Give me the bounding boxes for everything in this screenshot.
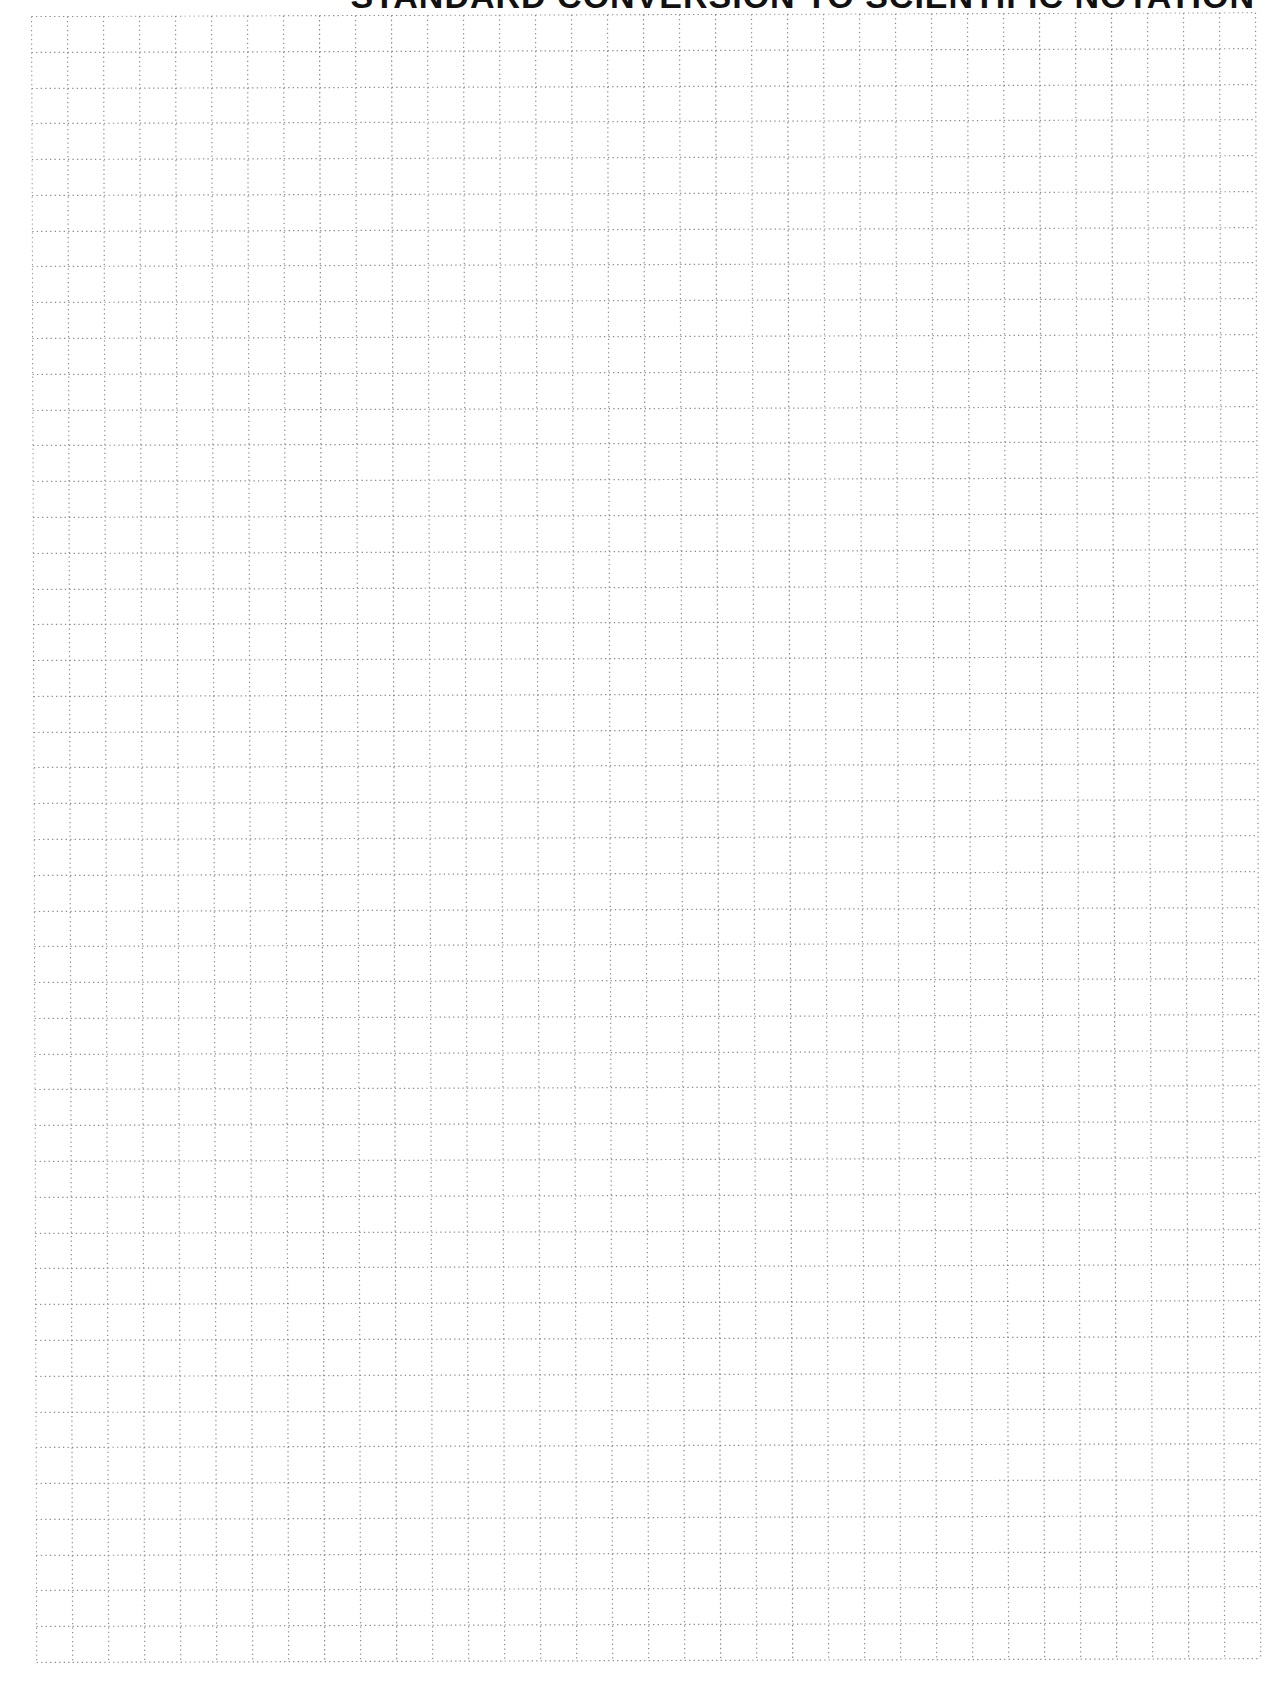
graph-paper-page: STANDARD CONVERSION TO SCIENTIFIC NOTATI…: [0, 0, 1283, 1683]
dotted-grid: [31, 12, 1260, 1662]
grid-lines: [31, 12, 1262, 1664]
